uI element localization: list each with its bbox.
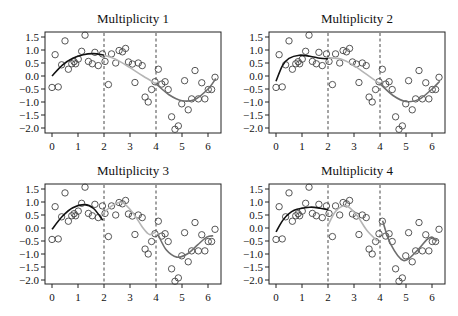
data-point bbox=[369, 99, 375, 105]
x-tick-label: 3 bbox=[127, 140, 133, 152]
y-tick-label: 0.5 bbox=[249, 57, 263, 69]
panel-2: Multiplicity 21.51.00.50.0−0.5−1.0−1.5−2… bbox=[243, 11, 445, 152]
x-tick-label: 4 bbox=[377, 291, 383, 303]
x-tick-label: 3 bbox=[351, 140, 357, 152]
x-tick-label: 6 bbox=[205, 140, 211, 152]
data-point bbox=[181, 77, 187, 83]
data-point bbox=[113, 212, 119, 218]
data-point bbox=[148, 86, 154, 92]
x-tick-label: 4 bbox=[153, 291, 159, 303]
data-point bbox=[129, 61, 135, 67]
data-point bbox=[409, 107, 415, 113]
y-tick-label: −1.0 bbox=[19, 96, 39, 108]
data-point bbox=[165, 238, 171, 244]
y-tick-label: 0.5 bbox=[249, 209, 263, 221]
y-tick-label: 0.0 bbox=[249, 222, 263, 234]
data-point bbox=[326, 210, 332, 216]
y-tick-label: 1.5 bbox=[249, 31, 263, 43]
data-point bbox=[199, 232, 205, 238]
data-point bbox=[55, 84, 61, 90]
x-tick-label: 6 bbox=[205, 291, 211, 303]
x-tick-label: 0 bbox=[273, 140, 279, 152]
multiplicity-figure: Multiplicity 11.51.00.50.0−0.5−1.0−1.5−2… bbox=[0, 0, 458, 316]
data-point bbox=[332, 51, 338, 57]
x-tick-label: 5 bbox=[179, 291, 185, 303]
data-point bbox=[319, 62, 325, 68]
data-point bbox=[302, 200, 308, 206]
data-point bbox=[416, 219, 422, 225]
data-point bbox=[92, 201, 98, 207]
data-point bbox=[52, 203, 58, 209]
x-tick-label: 1 bbox=[75, 291, 81, 303]
data-point bbox=[199, 80, 205, 86]
y-tick-label: 0.5 bbox=[25, 57, 39, 69]
data-point bbox=[132, 79, 138, 85]
data-point bbox=[212, 226, 218, 232]
data-point bbox=[323, 51, 329, 57]
data-point bbox=[155, 66, 161, 72]
x-tick-label: 2 bbox=[101, 140, 107, 152]
y-tick-label: −2.0 bbox=[243, 122, 263, 134]
panel-title: Multiplicity 1 bbox=[97, 11, 169, 26]
data-point bbox=[423, 232, 429, 238]
data-point bbox=[369, 251, 375, 257]
data-point bbox=[376, 231, 382, 237]
data-point bbox=[125, 59, 131, 65]
y-tick-label: 1.0 bbox=[25, 196, 39, 208]
x-tick-label: 3 bbox=[351, 291, 357, 303]
y-tick-label: 1.0 bbox=[25, 44, 39, 56]
data-point bbox=[192, 219, 198, 225]
data-point bbox=[436, 74, 442, 80]
y-tick-label: 0.0 bbox=[25, 222, 39, 234]
data-point bbox=[52, 51, 58, 57]
data-point bbox=[423, 80, 429, 86]
y-tick-label: 1.5 bbox=[25, 31, 39, 43]
x-tick-label: 6 bbox=[429, 291, 435, 303]
y-tick-label: 1.0 bbox=[249, 44, 263, 56]
y-tick-label: −2.0 bbox=[19, 122, 39, 134]
x-tick-label: 2 bbox=[325, 140, 331, 152]
data-point bbox=[329, 233, 335, 239]
y-tick-label: −0.5 bbox=[243, 83, 263, 95]
x-tick-label: 1 bbox=[299, 140, 305, 152]
data-point bbox=[379, 66, 385, 72]
panel-title: Multiplicity 4 bbox=[321, 163, 393, 178]
data-point bbox=[105, 81, 111, 87]
data-point bbox=[185, 259, 191, 265]
x-tick-label: 5 bbox=[403, 291, 409, 303]
data-point bbox=[62, 38, 68, 44]
data-point bbox=[49, 84, 55, 90]
data-point bbox=[202, 248, 208, 254]
y-tick-label: 1.0 bbox=[249, 196, 263, 208]
data-point bbox=[195, 248, 201, 254]
y-tick-label: −1.5 bbox=[19, 109, 39, 121]
x-tick-label: 2 bbox=[101, 291, 107, 303]
data-point bbox=[426, 248, 432, 254]
y-tick-label: −1.5 bbox=[19, 261, 39, 273]
data-point bbox=[125, 211, 131, 217]
data-point bbox=[337, 212, 343, 218]
x-tick-label: 0 bbox=[49, 140, 55, 152]
y-tick-label: −0.5 bbox=[243, 235, 263, 247]
data-point bbox=[82, 32, 88, 38]
data-point bbox=[148, 238, 154, 244]
data-point bbox=[392, 266, 398, 272]
data-point bbox=[155, 218, 161, 224]
data-point bbox=[416, 67, 422, 73]
data-point bbox=[405, 77, 411, 83]
data-point bbox=[279, 236, 285, 242]
data-point bbox=[95, 62, 101, 68]
data-point bbox=[168, 266, 174, 272]
panel-title: Multiplicity 2 bbox=[321, 11, 393, 26]
data-point bbox=[145, 99, 151, 105]
x-tick-label: 4 bbox=[153, 140, 159, 152]
y-tick-label: −0.5 bbox=[19, 235, 39, 247]
panel-title: Multiplicity 3 bbox=[97, 163, 169, 178]
x-tick-label: 0 bbox=[49, 291, 55, 303]
x-tick-label: 5 bbox=[179, 140, 185, 152]
y-tick-label: −1.5 bbox=[243, 261, 263, 273]
data-point bbox=[306, 184, 312, 190]
data-point bbox=[132, 231, 138, 237]
data-point bbox=[356, 231, 362, 237]
data-point bbox=[168, 114, 174, 120]
